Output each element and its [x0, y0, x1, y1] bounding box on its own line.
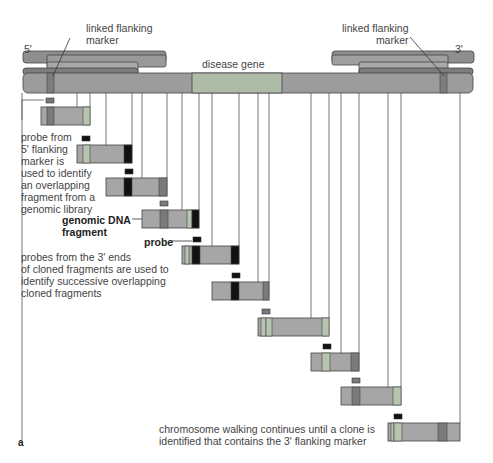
three-prime-label: 3' — [455, 43, 463, 55]
cloned-fragment — [341, 378, 401, 405]
fragment-band — [187, 210, 192, 228]
probe-marker — [46, 98, 54, 103]
fragment-band — [391, 423, 394, 441]
fragment-band — [393, 387, 401, 405]
probes-3prime-caption: probes from the 3' ends of cloned fragme… — [21, 251, 169, 299]
fragment-band — [322, 353, 330, 371]
probe-marker — [232, 273, 240, 278]
fragment-band — [438, 423, 447, 441]
probe-marker — [262, 309, 270, 314]
fragment-band — [47, 107, 54, 125]
fragment-band — [192, 210, 199, 228]
probe-marker — [323, 344, 331, 349]
cloned-fragment — [388, 414, 460, 441]
fragment-band — [322, 318, 329, 336]
left-marker-label: linked flanking marker — [86, 22, 153, 46]
cloned-fragment — [311, 344, 359, 371]
cloned-fragment — [41, 98, 90, 125]
fragment-band — [124, 145, 132, 163]
probe-marker — [352, 378, 360, 383]
chromosome — [23, 73, 473, 93]
fragment-band — [160, 210, 168, 228]
probe-5prime-caption: probe from 5' flanking marker is used to… — [21, 131, 95, 215]
fragment-band — [351, 353, 359, 371]
fragment-band — [394, 423, 402, 441]
fragment-band — [266, 318, 272, 336]
fragment-band — [192, 246, 200, 264]
cloned-fragment — [142, 201, 199, 228]
probe-marker — [394, 414, 402, 419]
probe-marker — [160, 201, 168, 206]
disease-gene-label: disease gene — [202, 58, 264, 70]
fragment-band — [83, 107, 90, 125]
genomic-fragment-label: genomic DNA fragment — [62, 214, 131, 238]
fragment-band — [231, 282, 239, 300]
five-prime-label: 5' — [24, 43, 32, 55]
cloned-fragment — [258, 309, 329, 336]
cloned-fragment — [212, 273, 269, 300]
left-overlapping-clones — [23, 51, 166, 75]
fragment-band — [185, 246, 189, 264]
fragment-band — [124, 178, 132, 196]
fragment-band — [261, 318, 266, 336]
disease-gene-region — [192, 73, 282, 93]
fragment-band — [159, 178, 167, 196]
panel-label: a — [18, 437, 24, 449]
probe-marker — [193, 237, 201, 242]
walking-continues-caption: chromosome walking continues until a clo… — [159, 423, 375, 447]
fragment-band — [231, 246, 239, 264]
cloned-fragment — [106, 169, 167, 196]
probe-marker — [125, 169, 133, 174]
right-marker-label: linked flanking marker — [342, 22, 409, 46]
fragment-band — [352, 387, 360, 405]
fragment-band — [263, 282, 269, 300]
right-overlapping-clones — [332, 51, 474, 75]
left-marker-band — [47, 73, 54, 93]
probe-label: probe — [144, 236, 173, 248]
